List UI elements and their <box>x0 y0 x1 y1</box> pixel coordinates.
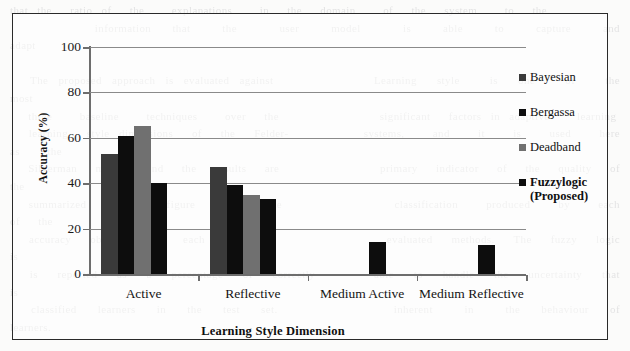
bar-reflective-bergassa[interactable] <box>227 185 244 274</box>
chart-legend: BayesianBergassaDeadbandFuzzylogic (Prop… <box>519 70 630 224</box>
y-tick-label-20: 20 <box>41 221 81 237</box>
x-tick-mark-2 <box>308 275 310 281</box>
y-tick-label-80: 80 <box>41 84 81 100</box>
legend-swatch-icon <box>519 109 526 116</box>
x-tick-mark-4 <box>526 275 528 281</box>
x-axis-title: Learning Style Dimension <box>13 324 533 339</box>
plot-area <box>89 47 444 274</box>
legend-label: Bayesian <box>530 70 576 84</box>
legend-item-fuzzylogic[interactable]: Fuzzylogic (Proposed) <box>519 175 630 203</box>
bar-medium-active-fuzzylogic[interactable] <box>369 242 386 274</box>
legend-swatch-icon <box>519 179 526 186</box>
legend-item-deadband[interactable]: Deadband <box>519 140 630 154</box>
bar-reflective-deadband[interactable] <box>243 195 260 274</box>
bar-active-deadband[interactable] <box>134 126 151 274</box>
y-tick-label-0: 0 <box>41 266 81 282</box>
legend-label: Fuzzylogic (Proposed) <box>530 175 588 203</box>
bar-active-bayesian[interactable] <box>101 154 118 274</box>
chart-figure-frame: 020406080100 Accuracy (%) ActiveReflecti… <box>12 13 608 340</box>
legend-label: Bergassa <box>530 105 575 119</box>
x-category-label-medium-active: Medium Active <box>308 286 417 301</box>
x-category-label-medium-reflective: Medium Reflective <box>417 286 526 301</box>
legend-item-bergassa[interactable]: Bergassa <box>519 105 630 119</box>
y-axis-title: Accuracy (%) <box>37 112 49 183</box>
legend-swatch-icon <box>519 144 526 151</box>
bar-active-fuzzylogic[interactable] <box>151 183 168 274</box>
bar-active-bergassa[interactable] <box>118 136 135 274</box>
x-category-label-reflective: Reflective <box>198 286 307 301</box>
x-tick-mark-1 <box>198 275 200 281</box>
bar-medium-reflective-fuzzylogic[interactable] <box>478 245 495 275</box>
x-category-label-active: Active <box>89 286 198 301</box>
bar-reflective-bayesian[interactable] <box>210 167 227 274</box>
x-tick-mark-3 <box>417 275 419 281</box>
legend-swatch-icon <box>519 74 526 81</box>
legend-item-bayesian[interactable]: Bayesian <box>519 70 630 84</box>
y-tick-mark-0 <box>83 274 90 276</box>
bar-reflective-fuzzylogic[interactable] <box>260 199 277 274</box>
y-tick-label-100: 100 <box>41 39 81 55</box>
legend-label: Deadband <box>530 140 581 154</box>
